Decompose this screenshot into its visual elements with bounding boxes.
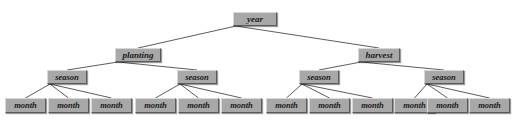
node-label: season [307,72,331,81]
node-month8[interactable]: month [309,98,350,113]
edge-season3-to-month7 [287,84,303,98]
edge-season1-to-month2 [50,84,69,98]
node-season1[interactable]: season [47,70,87,84]
node-label: season [185,72,209,81]
node-month4[interactable]: month [135,98,176,113]
node-label: month [275,101,298,110]
node-month9[interactable]: month [352,98,393,113]
node-month7[interactable]: month [266,98,307,113]
edge-season4-to-month11 [427,84,448,98]
edge-planting-to-season1 [67,62,118,70]
node-label: harvest [366,50,393,59]
edge-season2-to-month4 [156,84,181,98]
node-label: month [100,101,123,110]
edge-season1-to-month3 [50,84,112,98]
node-season4[interactable]: season [424,70,464,84]
edge-season3-to-month9 [302,84,373,98]
edge-harvest-to-season4 [361,62,444,70]
node-month1[interactable]: month [5,98,46,113]
node-label: month [478,101,501,110]
node-label: month [436,101,459,110]
edge-season1-to-month1 [26,84,51,98]
edge-season3-to-month8 [302,84,330,98]
edge-season4-to-month12 [427,84,490,98]
node-harvest[interactable]: harvest [358,48,400,62]
node-label: month [403,101,426,110]
node-month5[interactable]: month [178,98,219,113]
node-month2[interactable]: month [48,98,89,113]
node-year[interactable]: year [233,12,277,26]
node-season2[interactable]: season [177,70,217,84]
edge-season2-to-month6 [180,84,242,98]
edge-year-to-harvest [236,26,379,48]
node-label: month [57,101,80,110]
edge-harvest-to-season3 [319,62,361,70]
node-label: month [144,101,167,110]
node-month12[interactable]: month [469,98,510,113]
edge-year-to-planting [138,26,236,48]
node-month3[interactable]: month [91,98,132,113]
node-label: month [14,101,37,110]
tree-diagram: yearplantingharvestseasonseasonseasonsea… [0,0,515,124]
edge-planting-to-season2 [118,62,197,70]
node-label: month [318,101,341,110]
node-label: season [432,72,456,81]
node-label: month [230,101,253,110]
node-label: season [55,72,79,81]
node-month6[interactable]: month [221,98,262,113]
node-label: month [361,101,384,110]
edge-season4-to-month10 [415,84,428,98]
node-label: year [247,14,263,23]
node-month11[interactable]: month [427,98,468,113]
node-season3[interactable]: season [299,70,339,84]
node-planting[interactable]: planting [115,48,161,62]
edge-season2-to-month5 [180,84,199,98]
node-label: month [187,101,210,110]
node-label: planting [122,50,153,59]
